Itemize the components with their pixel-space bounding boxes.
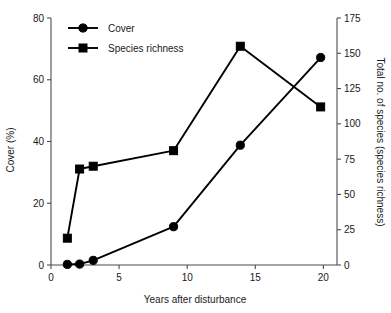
x-axis-tick-label: 5	[116, 272, 122, 283]
y-axis-left-ticks: 020406080	[33, 13, 51, 271]
y-axis-right-ticks: 0255075100125150175	[337, 13, 361, 271]
chart-legend: CoverSpecies richness	[68, 23, 184, 54]
y-axis-right-tick-label: 50	[344, 189, 356, 200]
circle-data-point	[169, 223, 177, 231]
chart-figure: 020406080 0255075100125150175 05101520 C…	[0, 0, 391, 313]
circle-data-point	[89, 256, 97, 264]
circle-data-point	[63, 260, 71, 268]
y-axis-right-tick-label: 125	[344, 83, 361, 94]
legend-label-0: Cover	[108, 23, 135, 34]
circle-data-point	[76, 260, 84, 268]
y-axis-right-title: Total no. of species (species richness)	[375, 58, 386, 227]
y-axis-left-tick-label: 40	[33, 136, 45, 147]
square-data-point	[63, 234, 71, 242]
square-data-point	[236, 42, 244, 50]
square-data-point	[76, 165, 84, 173]
square-data-point	[170, 147, 178, 155]
x-axis-tick-label: 20	[318, 272, 330, 283]
series-line-species-richness	[67, 46, 320, 238]
circle-data-point	[317, 53, 325, 61]
y-axis-right-tick-label: 175	[344, 13, 361, 24]
square-marker	[79, 44, 87, 52]
y-axis-right-tick-label: 100	[344, 118, 361, 129]
x-axis-tick-label: 15	[250, 272, 262, 283]
square-data-point	[89, 162, 97, 170]
y-axis-right-tick-label: 0	[344, 260, 350, 271]
x-axis-tick-label: 0	[48, 272, 54, 283]
x-axis-tick-label: 10	[182, 272, 194, 283]
y-axis-left-tick-label: 60	[33, 74, 45, 85]
y-axis-left-tick-label: 20	[33, 198, 45, 209]
square-data-point	[317, 103, 325, 111]
y-axis-right-tick-label: 150	[344, 48, 361, 59]
plot-series-group	[63, 42, 325, 268]
y-axis-left-title: Cover (%)	[5, 127, 16, 172]
y-axis-right-tick-label: 25	[344, 224, 356, 235]
y-axis-left-tick-label: 0	[38, 260, 44, 271]
legend-label-1: Species richness	[108, 43, 184, 54]
circle-data-point	[236, 141, 244, 149]
x-axis-ticks: 05101520	[48, 265, 329, 283]
x-axis-title: Years after disturbance	[144, 294, 247, 305]
y-axis-left-tick-label: 80	[33, 13, 45, 24]
series-line-cover	[67, 58, 320, 265]
chart-canvas: 020406080 0255075100125150175 05101520 C…	[0, 0, 391, 313]
circle-marker	[79, 24, 87, 32]
y-axis-right-tick-label: 75	[344, 154, 356, 165]
